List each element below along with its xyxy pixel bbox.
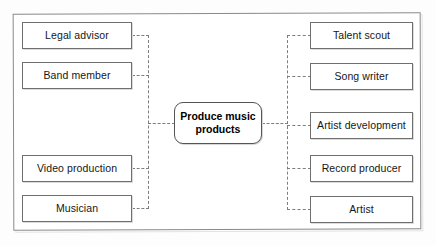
node-label: Legal advisor xyxy=(41,29,113,41)
connector-left-2 xyxy=(132,75,149,76)
connector-right-5 xyxy=(287,209,311,210)
connector-left-3 xyxy=(132,168,149,169)
node-legal-advisor: Legal advisor xyxy=(22,22,132,49)
node-musician: Musician xyxy=(22,195,132,222)
node-label: Musician xyxy=(52,202,102,214)
node-label: Band member xyxy=(39,69,114,81)
node-label: Artist development xyxy=(313,119,410,131)
diagram-canvas: Legal advisor Band member Video producti… xyxy=(0,0,436,246)
center-node-label: Produce music products xyxy=(175,110,261,135)
node-label: Record producer xyxy=(318,162,406,174)
node-video-production: Video production xyxy=(22,155,132,182)
connector-left-4 xyxy=(132,208,149,209)
node-band-member: Band member xyxy=(22,62,132,89)
connector-right-2 xyxy=(287,76,311,77)
node-label: Artist xyxy=(345,203,378,215)
connector-bus-left xyxy=(148,35,149,209)
node-artist-development: Artist development xyxy=(310,112,413,139)
node-label: Talent scout xyxy=(329,29,394,41)
connector-left-1 xyxy=(132,35,149,36)
node-record-producer: Record producer xyxy=(310,155,413,182)
node-label: Song writer xyxy=(330,70,392,82)
node-label: Video production xyxy=(33,162,121,174)
connector-center-left xyxy=(148,123,175,124)
connector-right-4 xyxy=(287,168,311,169)
connector-center-right xyxy=(262,123,288,124)
node-song-writer: Song writer xyxy=(310,63,413,90)
node-artist: Artist xyxy=(310,196,413,223)
node-talent-scout: Talent scout xyxy=(310,22,413,49)
connector-right-1 xyxy=(287,35,311,36)
node-produce-music-products: Produce music products xyxy=(174,102,262,144)
connector-right-3 xyxy=(287,125,311,126)
